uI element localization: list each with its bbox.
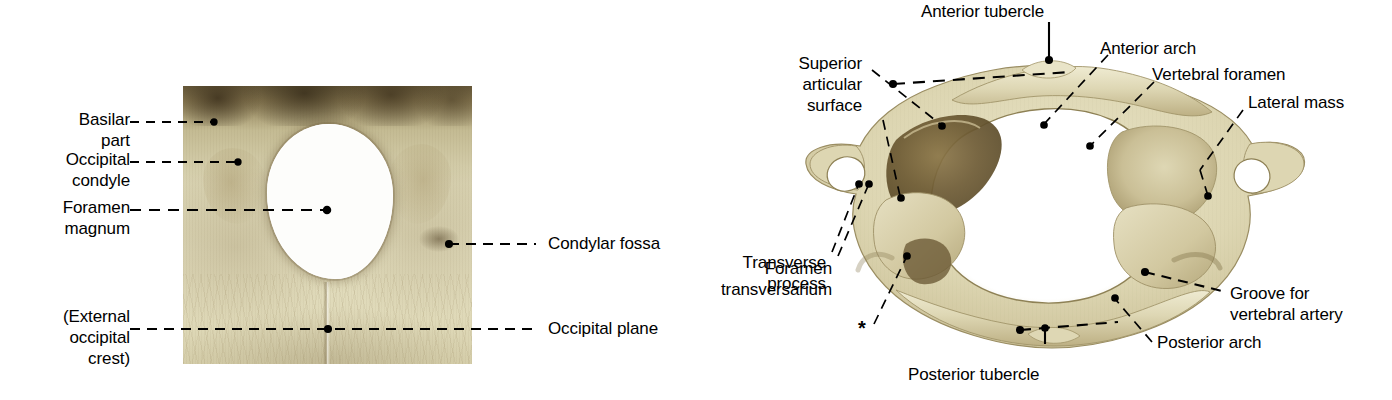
label-external-occipital-crest: (External occipital crest) [0,306,130,369]
label-posterior-tubercle: Posterior tubercle [908,364,1039,385]
occipital-bone-photo [183,86,472,364]
label-foramen-magnum: Foramen magnum [0,197,130,239]
label-foramen-transversarium: Foramen transversarium [612,258,832,300]
anatomy-figure: Basilar part Occipital condyle Foramen m… [0,0,1392,400]
label-basilar-part: Basilar part [0,109,130,151]
label-occipital-plane: Occipital plane [548,318,658,339]
label-anterior-tubercle: Anterior tubercle [921,1,1044,22]
label-asterisk-marker: * [858,318,866,338]
label-condylar-fossa: Condylar fossa [548,233,660,254]
label-posterior-arch: Posterior arch [1157,332,1261,353]
label-occipital-condyle: Occipital condyle [0,149,130,191]
label-superior-articular-surface: Superior articular surface [692,53,862,116]
label-anterior-arch: Anterior arch [1100,38,1196,59]
label-vertebral-foramen: Vertebral foramen [1152,64,1285,85]
condylar-fossa-pit [419,226,459,252]
label-groove-for-vertebral-artery: Groove for vertebral artery [1230,283,1343,325]
label-lateral-mass: Lateral mass [1248,92,1344,113]
external-occipital-crest-ridge [323,282,330,364]
skull-base-shadow [183,86,472,126]
